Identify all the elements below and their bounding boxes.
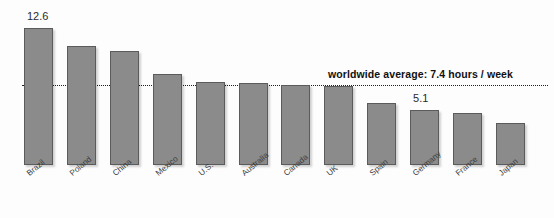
bar-china (110, 51, 139, 165)
bar-brazil (24, 28, 53, 165)
bar-france (453, 113, 482, 165)
bar-uk (324, 86, 353, 165)
bar-chart: worldwide average: 7.4 hours / week 12.6… (0, 0, 554, 218)
bar-spain (367, 103, 396, 165)
category-label-uk: UK (325, 164, 339, 178)
value-label-brazil: 12.6 (27, 10, 48, 22)
worldwide-average-label: worldwide average: 7.4 hours / week (328, 68, 513, 80)
bar-canada (281, 85, 310, 165)
bar-poland (67, 46, 96, 165)
plot-area: worldwide average: 7.4 hours / week 12.6… (0, 0, 554, 218)
value-label-germany: 5.1 (413, 92, 428, 104)
bar-u-s (196, 82, 225, 165)
bar-mexico (153, 74, 182, 165)
